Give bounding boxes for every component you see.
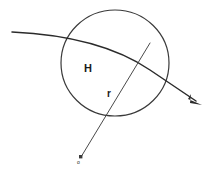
origin-point-marker bbox=[79, 155, 82, 158]
label-origin-point: o bbox=[77, 159, 80, 165]
radius-line bbox=[81, 43, 150, 157]
label-center-region: H bbox=[84, 62, 92, 74]
diagram-canvas: H r o bbox=[0, 0, 224, 172]
label-radius: r bbox=[107, 88, 111, 99]
geometry-diagram: H r o bbox=[0, 0, 224, 172]
